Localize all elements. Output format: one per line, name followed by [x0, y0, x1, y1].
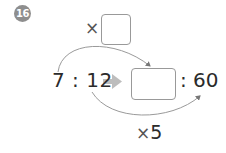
- bottom-multiplier: ×5: [136, 121, 162, 143]
- multiplier-value: 5: [150, 121, 162, 143]
- multiply-icon-top: ×: [85, 18, 99, 38]
- left-ratio: 7 : 12: [52, 68, 113, 92]
- problem-number-badge: 16: [14, 5, 31, 22]
- right-ratio: : 60: [180, 68, 219, 92]
- multiply-icon-bottom: ×: [136, 123, 150, 143]
- answer-blank[interactable]: [131, 68, 176, 100]
- top-multiplier-blank[interactable]: [101, 14, 131, 45]
